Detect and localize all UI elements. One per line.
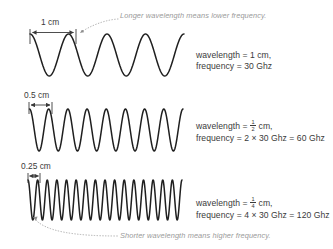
wavelength-prefix-1cm: wavelength = (196, 50, 250, 60)
wavelength-prefix-quarter-cm: wavelength = (196, 198, 250, 208)
frequency-line-quarter-cm: frequency = 4 × 30 Ghz = 120 Ghz (196, 210, 330, 221)
wavelength-unit-half-cm: cm, (256, 121, 272, 131)
wavelength-unit-quarter-cm: cm, (256, 198, 272, 208)
callout-leader-bottom (33, 217, 118, 236)
callout-top: Longer wavelength means lower frequency. (120, 11, 266, 20)
fraction-one-half: 12 (250, 119, 255, 132)
fraction-one-quarter: 14 (250, 196, 255, 209)
wave-row-3 (28, 173, 182, 236)
wave-path-quarter-cm (28, 180, 182, 220)
wave-row-1 (30, 19, 184, 76)
dimension-label-quarter-cm: 0.25 cm (21, 161, 51, 171)
wavelength-line-1cm: wavelength = 1 cm, (196, 50, 272, 61)
fraction-denominator-quarter: 4 (250, 202, 255, 209)
row-description-1cm: wavelength = 1 cm, frequency = 30 Ghz (196, 50, 272, 73)
dimension-arrow-1cm (30, 29, 76, 44)
callout-leader-top (81, 19, 119, 33)
row-description-half-cm: wavelength = 12 cm, frequency = 2 × 30 G… (196, 119, 325, 144)
frequency-line-half-cm: frequency = 2 × 30 Ghz = 60 Ghz (196, 133, 325, 144)
wave-path-1cm (30, 34, 184, 76)
wavelength-line-quarter-cm: wavelength = 14 cm, (196, 196, 330, 210)
row-description-quarter-cm: wavelength = 14 cm, frequency = 4 × 30 G… (196, 196, 330, 221)
frequency-line-1cm: frequency = 30 Ghz (196, 61, 272, 72)
wave-path-half-cm (30, 109, 184, 151)
dimension-arrow-half-cm (29, 102, 52, 114)
callout-bottom: Shorter wavelength means higher frequenc… (120, 231, 271, 240)
wavelength-line-half-cm: wavelength = 12 cm, (196, 119, 325, 133)
wavelength-unit-1cm: cm, (255, 50, 271, 60)
figure-canvas: 1 cm 0.5 cm 0.25 cm Longer wavelength me… (0, 0, 333, 249)
wavelength-prefix-half-cm: wavelength = (196, 121, 250, 131)
dimension-label-1cm: 1 cm (41, 17, 59, 27)
dimension-label-half-cm: 0.5 cm (24, 90, 49, 100)
wave-row-2 (29, 102, 183, 151)
fraction-denominator-half: 2 (250, 125, 255, 132)
